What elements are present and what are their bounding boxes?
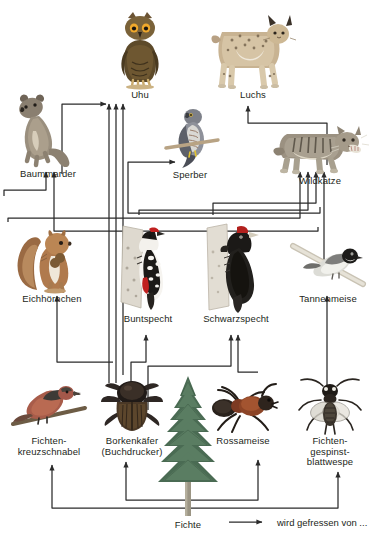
node-luchs[interactable]: Luchs: [205, 12, 301, 101]
baummarder-illustration: [9, 95, 87, 169]
node-label-buntspecht: Buntspecht: [112, 314, 184, 325]
uhu-illustration: [102, 10, 178, 90]
node-label-fichte: Fichte: [148, 520, 228, 531]
schwarzspecht-illustration: [199, 222, 273, 314]
fichte-illustration: [149, 374, 227, 520]
node-label-blattwespe: Fichten- gespinst- blattwespe: [292, 436, 368, 468]
node-schwarzspecht[interactable]: Schwarzspecht: [198, 222, 274, 325]
node-kreuzschnabel[interactable]: Fichten- kreuzschnabel: [8, 380, 90, 457]
node-sperber[interactable]: Sperber: [155, 104, 225, 181]
node-eichhoernchen[interactable]: Eichhörnchen: [10, 228, 94, 305]
node-blattwespe[interactable]: Fichten- gespinst- blattwespe: [292, 378, 368, 468]
sperber-illustration: [156, 104, 224, 170]
food-web-diagram: Uhu: [0, 0, 380, 547]
node-label-kreuzschnabel: Fichten- kreuzschnabel: [8, 436, 90, 457]
node-baummarder[interactable]: Baummarder: [8, 95, 88, 180]
node-label-tannenmeise: Tannenmeise: [288, 294, 368, 305]
tannenmeise-illustration: [289, 234, 367, 294]
legend: wird gefressen von ...: [228, 516, 367, 528]
node-fichte[interactable]: Fichte: [148, 374, 228, 531]
node-buntspecht[interactable]: Buntspecht: [112, 222, 184, 325]
buntspecht-illustration: [113, 222, 183, 314]
node-tannenmeise[interactable]: Tannenmeise: [288, 234, 368, 305]
node-label-luchs: Luchs: [205, 90, 301, 101]
node-label-uhu: Uhu: [100, 90, 180, 101]
wildkatze-illustration: [269, 118, 371, 176]
node-label-baummarder: Baummarder: [8, 169, 88, 180]
node-label-schwarzspecht: Schwarzspecht: [198, 314, 274, 325]
node-wildkatze[interactable]: Wildkatze: [268, 118, 372, 187]
node-label-sperber: Sperber: [155, 170, 225, 181]
luchs-illustration: [206, 12, 300, 90]
kreuzschnabel-illustration: [9, 380, 89, 436]
node-label-eichhoernchen: Eichhörnchen: [10, 294, 94, 305]
node-layer: Uhu: [0, 0, 380, 547]
node-uhu[interactable]: Uhu: [100, 10, 180, 101]
node-label-wildkatze: Wildkatze: [268, 176, 372, 187]
eaten-by-arrow-icon: [228, 516, 272, 528]
blattwespe-illustration: [293, 378, 367, 436]
eichhoernchen-illustration: [11, 228, 93, 294]
legend-label: wird gefressen von ...: [277, 517, 367, 528]
